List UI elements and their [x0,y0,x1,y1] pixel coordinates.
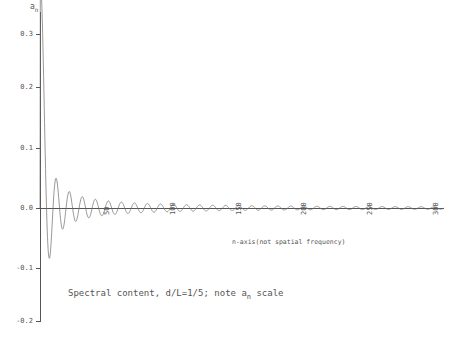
spectrum-plot [0,0,456,341]
chart-container: an 0.3 0.2 0.1 0.0 -0.1 -0.2 50 100 150 … [0,0,456,341]
series-an [40,0,444,258]
series-line [40,0,444,258]
